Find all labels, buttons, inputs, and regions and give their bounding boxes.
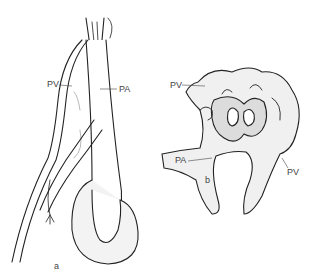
label-pv-a: PV (47, 80, 59, 89)
label-pa-b: PA (175, 156, 186, 165)
panel-label-a: a (54, 262, 59, 271)
label-pa-a: PA (119, 85, 130, 94)
panel-a-drawing (12, 18, 138, 264)
illustration (0, 0, 318, 279)
panel-label-b: b (205, 176, 210, 185)
panel-b-drawing (162, 68, 299, 214)
label-pv-b-top: PV (170, 81, 182, 90)
label-pv-b-right: PV (287, 168, 299, 177)
